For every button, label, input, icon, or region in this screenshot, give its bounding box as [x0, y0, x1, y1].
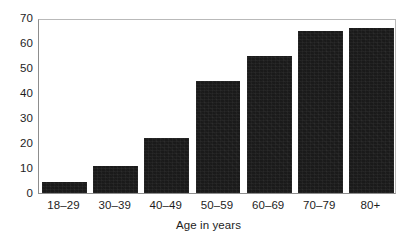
y-tick-label: 30	[0, 113, 33, 125]
y-tick-label: 10	[0, 163, 33, 175]
x-tick-label: 50–59	[191, 198, 242, 212]
x-tick-label: 80+	[345, 198, 396, 212]
y-tick-label: 70	[0, 13, 33, 25]
bar	[196, 81, 241, 194]
bar	[349, 28, 394, 193]
x-axis: 18–2930–3940–4950–5960–6970–7980+	[38, 198, 396, 214]
y-tick-label: 40	[0, 88, 33, 100]
y-tick-label: 20	[0, 138, 33, 150]
bar-chart-figure: 010203040506070 18–2930–3940–4950–5960–6…	[0, 0, 417, 242]
x-axis-title: Age in years	[0, 219, 417, 231]
y-tick-label: 0	[0, 188, 33, 200]
bar	[42, 182, 87, 193]
bar	[247, 56, 292, 194]
x-tick-label: 30–39	[89, 198, 140, 212]
bar	[298, 31, 343, 194]
x-tick-label: 70–79	[294, 198, 345, 212]
y-tick-label: 50	[0, 63, 33, 75]
y-axis: 010203040506070	[0, 0, 33, 242]
bars-layer	[39, 20, 395, 193]
plot-area	[38, 19, 396, 194]
bar	[93, 166, 138, 194]
bar	[144, 138, 189, 193]
y-tick-label: 60	[0, 38, 33, 50]
x-tick-label: 40–49	[140, 198, 191, 212]
x-tick-label: 18–29	[38, 198, 89, 212]
x-tick-label: 60–69	[243, 198, 294, 212]
